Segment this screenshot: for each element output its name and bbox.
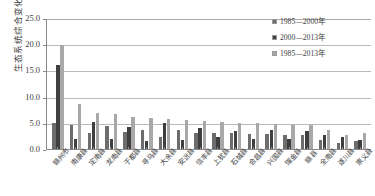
- ecosystem-change-rate-bar-chart: 生态系统综合变化率/% 0.05.010.015.020.025.0 赣州市南康…: [0, 0, 375, 196]
- bar: [78, 104, 81, 149]
- x-axis-label-cell: 全南县: [315, 151, 333, 196]
- bar-group: [227, 19, 245, 149]
- x-tick-mark: [324, 147, 325, 150]
- bar: [185, 120, 188, 149]
- y-tick-label: 0.0: [4, 145, 40, 154]
- bar-group: [334, 19, 352, 149]
- bar-group: [156, 19, 174, 149]
- x-tick-mark: [164, 147, 165, 150]
- x-tick-mark: [93, 147, 94, 150]
- legend-label: 1985—2013年: [280, 50, 326, 58]
- x-tick-mark: [307, 147, 308, 150]
- x-axis-label-cell: 于都县: [119, 151, 137, 196]
- bar-group: [209, 19, 227, 149]
- x-axis-labels: 赣州市南康县定南县龙南县于都县寻乌县大余县安远县信丰县上犹县石城县会昌县兴国县瑞…: [46, 151, 371, 196]
- bar: [56, 65, 59, 149]
- bar-group: [85, 19, 103, 149]
- y-tick-label: 10.0: [4, 93, 40, 102]
- x-tick-mark: [75, 147, 76, 150]
- legend-swatch-icon: [272, 35, 277, 40]
- bar-group: [191, 19, 209, 149]
- bar-group: [138, 19, 156, 149]
- x-axis-label-cell: 遂川县: [333, 151, 351, 196]
- legend-item[interactable]: 2000—2013年: [272, 34, 326, 42]
- bar: [92, 122, 95, 149]
- bar: [337, 143, 340, 149]
- x-tick-mark: [360, 147, 361, 150]
- bar: [354, 141, 357, 149]
- bar: [230, 133, 233, 149]
- bar: [212, 133, 215, 149]
- bar: [198, 128, 201, 149]
- bar-group: [351, 19, 369, 149]
- bar-group: [102, 19, 120, 149]
- bar: [52, 123, 55, 149]
- x-axis-label-cell: 赣县: [298, 151, 316, 196]
- bar: [96, 113, 99, 149]
- bar: [163, 123, 166, 149]
- bar: [141, 130, 144, 149]
- x-axis-label-cell: 南康县: [66, 151, 84, 196]
- legend-item[interactable]: 1985—2000年: [272, 18, 326, 26]
- x-axis-label-cell: 瑞金县: [280, 151, 298, 196]
- y-tick-label: 20.0: [4, 40, 40, 49]
- x-axis-label-cell: 会昌县: [244, 151, 262, 196]
- y-tick-label: 25.0: [4, 14, 40, 23]
- bar-group: [67, 19, 85, 149]
- x-axis-label-cell: 赣州市: [48, 151, 66, 196]
- bar: [265, 134, 268, 149]
- legend-swatch-icon: [272, 19, 277, 24]
- legend: 1985—2000年2000—2013年1985—2013年: [272, 18, 326, 66]
- x-axis-label-cell: 龙南县: [101, 151, 119, 196]
- bar: [159, 137, 162, 149]
- x-axis-label-cell: 安远县: [173, 151, 191, 196]
- bar: [283, 135, 286, 149]
- x-tick-mark: [271, 147, 272, 150]
- x-tick-mark: [253, 147, 254, 150]
- bar: [123, 132, 126, 149]
- x-tick-mark: [146, 147, 147, 150]
- bar: [301, 135, 304, 149]
- x-axis-label-cell: 石城县: [226, 151, 244, 196]
- x-tick-mark: [128, 147, 129, 150]
- x-axis-label-cell: 寻乌县: [137, 151, 155, 196]
- bar: [309, 125, 312, 149]
- x-tick-mark: [289, 147, 290, 150]
- legend-label: 1985—2000年: [280, 18, 326, 26]
- legend-label: 2000—2013年: [280, 34, 326, 42]
- bar-group: [173, 19, 191, 149]
- x-tick-mark: [200, 147, 201, 150]
- bar: [194, 133, 197, 149]
- y-tick-label: 5.0: [4, 119, 40, 128]
- x-axis-label-cell: 定南县: [84, 151, 102, 196]
- x-axis-label-cell: 上犹县: [208, 151, 226, 196]
- x-tick-mark: [342, 147, 343, 150]
- bar-group: [245, 19, 263, 149]
- bar: [248, 134, 251, 149]
- x-axis-label-cell: 信丰县: [191, 151, 209, 196]
- legend-swatch-icon: [272, 51, 277, 56]
- x-tick-mark: [217, 147, 218, 150]
- x-tick-mark: [235, 147, 236, 150]
- bar: [203, 121, 206, 149]
- bar: [70, 125, 73, 149]
- bar: [88, 133, 91, 149]
- bar-group: [49, 19, 67, 149]
- bar: [105, 126, 108, 149]
- bar: [177, 130, 180, 149]
- x-axis-label-cell: 大余县: [155, 151, 173, 196]
- bar: [319, 140, 322, 149]
- y-tick-label: 15.0: [4, 66, 40, 75]
- bar: [127, 127, 130, 149]
- bar-group: [120, 19, 138, 149]
- x-axis-label-cell: 崇义县: [351, 151, 369, 196]
- legend-item[interactable]: 1985—2013年: [272, 50, 326, 58]
- x-tick-mark: [57, 147, 58, 150]
- bar: [60, 45, 63, 149]
- x-tick-mark: [182, 147, 183, 150]
- x-axis-label-cell: 兴国县: [262, 151, 280, 196]
